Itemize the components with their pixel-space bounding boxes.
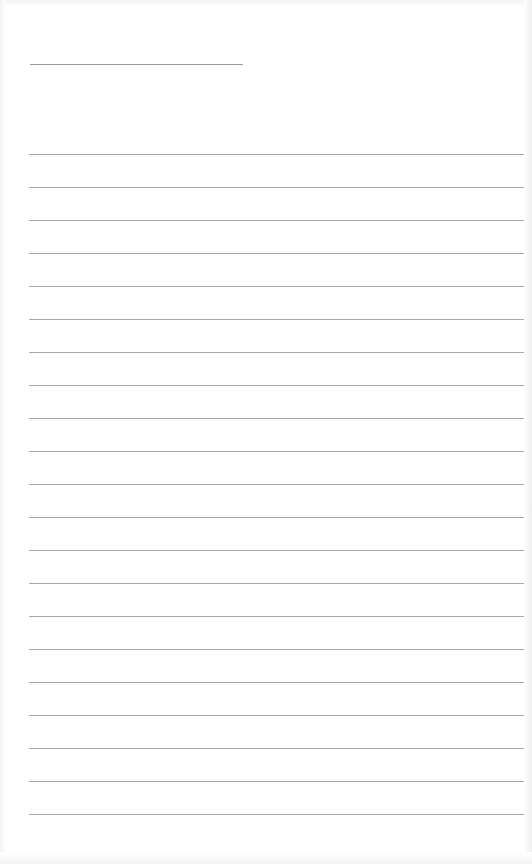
paper-right-edge bbox=[524, 0, 532, 864]
paper-bottom-edge bbox=[0, 852, 532, 864]
ruled-line bbox=[29, 517, 524, 518]
ruled-line bbox=[29, 220, 524, 221]
header-name-line bbox=[30, 64, 243, 65]
ruled-line bbox=[29, 154, 524, 155]
ruled-line bbox=[29, 385, 524, 386]
ruled-line bbox=[29, 781, 524, 782]
ruled-line bbox=[29, 418, 524, 419]
ruled-line bbox=[29, 748, 524, 749]
paper-left-edge bbox=[0, 0, 6, 864]
ruled-line bbox=[29, 682, 524, 683]
ruled-line bbox=[29, 550, 524, 551]
ruled-line bbox=[29, 352, 524, 353]
ruled-line bbox=[29, 319, 524, 320]
ruled-line bbox=[29, 187, 524, 188]
paper-top-edge bbox=[0, 0, 532, 6]
ruled-line bbox=[29, 451, 524, 452]
ruled-line bbox=[29, 484, 524, 485]
ruled-line bbox=[29, 253, 524, 254]
ruled-line bbox=[29, 649, 524, 650]
lined-paper-sheet bbox=[0, 0, 532, 864]
ruled-line bbox=[29, 583, 524, 584]
ruled-line bbox=[29, 286, 524, 287]
ruled-line bbox=[29, 814, 524, 815]
ruled-line bbox=[29, 715, 524, 716]
ruled-line bbox=[29, 616, 524, 617]
